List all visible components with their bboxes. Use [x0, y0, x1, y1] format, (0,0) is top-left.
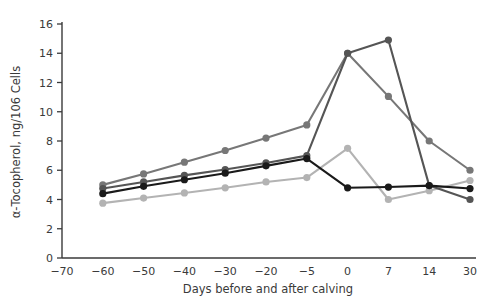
data-point-marker	[99, 190, 106, 197]
data-point-marker	[303, 155, 310, 162]
x-tick-label: −40	[173, 265, 196, 278]
x-axis-title: Days before and after calving	[183, 282, 353, 296]
x-tick-label: −5	[299, 265, 315, 278]
data-point-marker	[140, 170, 147, 177]
data-point-marker	[344, 50, 351, 57]
data-point-marker	[385, 183, 392, 190]
data-point-marker	[222, 184, 229, 191]
data-point-marker	[344, 184, 351, 191]
x-tick-label: −70	[50, 265, 73, 278]
data-point-marker	[385, 93, 392, 100]
x-tick-label: −60	[91, 265, 114, 278]
y-tick-label: 4	[46, 194, 53, 207]
x-tick-label: 0	[344, 265, 351, 278]
data-point-marker	[303, 174, 310, 181]
tocopherol-line-chart: 0246810121416 −70−60−50−40−30−20−5071430…	[0, 0, 483, 300]
y-tick-label: 6	[46, 164, 53, 177]
data-point-marker	[181, 176, 188, 183]
data-point-marker	[222, 147, 229, 154]
y-tick-label: 14	[39, 47, 53, 60]
y-tick-label: 16	[39, 18, 53, 31]
data-point-marker	[140, 194, 147, 201]
data-point-marker	[466, 196, 473, 203]
data-point-marker	[303, 121, 310, 128]
data-point-marker	[385, 36, 392, 43]
chart-background	[0, 0, 483, 300]
data-point-marker	[426, 137, 433, 144]
data-point-marker	[385, 196, 392, 203]
data-point-marker	[181, 159, 188, 166]
data-point-marker	[466, 177, 473, 184]
data-point-marker	[262, 134, 269, 141]
y-tick-label: 10	[39, 106, 53, 119]
data-point-marker	[262, 162, 269, 169]
data-point-marker	[99, 200, 106, 207]
data-point-marker	[140, 183, 147, 190]
data-point-marker	[466, 185, 473, 192]
x-tick-label: −30	[214, 265, 237, 278]
x-tick-label: 7	[385, 265, 392, 278]
data-point-marker	[222, 170, 229, 177]
x-tick-label: 14	[422, 265, 436, 278]
data-point-marker	[344, 145, 351, 152]
y-tick-label: 0	[46, 252, 53, 265]
y-tick-label: 8	[46, 135, 53, 148]
chart-figure: 0246810121416 −70−60−50−40−30−20−5071430…	[0, 0, 483, 300]
data-point-marker	[262, 178, 269, 185]
y-axis-title: α-Tocopherol, ng/106 Cells	[9, 66, 23, 218]
data-point-marker	[181, 189, 188, 196]
y-tick-label: 2	[46, 223, 53, 236]
y-tick-label: 12	[39, 77, 53, 90]
figure-top-margin	[0, 0, 483, 4]
x-tick-label: 30	[463, 265, 477, 278]
data-point-marker	[466, 167, 473, 174]
data-point-marker	[426, 182, 433, 189]
x-tick-label: −20	[254, 265, 277, 278]
x-tick-label: −50	[132, 265, 155, 278]
